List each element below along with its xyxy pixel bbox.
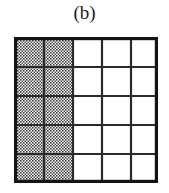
grid-cell-r5-c5 — [132, 155, 156, 181]
grid-cell-r1-c2 — [45, 39, 72, 66]
grid-cell-r4-c2 — [45, 126, 72, 153]
grid-cell-r5-c1 — [16, 155, 43, 181]
grid-cell-r1-c5 — [132, 39, 156, 66]
grid-cell-r2-c3 — [74, 68, 101, 95]
grid-cell-r3-c5 — [132, 97, 156, 124]
grid-cell-r2-c1 — [16, 68, 43, 95]
grid-cell-r1-c3 — [74, 39, 101, 66]
figure-panel: (b) — [0, 0, 169, 193]
grid-diagram — [14, 37, 158, 183]
grid-cell-r2-c5 — [132, 68, 156, 95]
grid-cell-r1-c1 — [16, 39, 43, 66]
grid-cell-r4-c4 — [103, 126, 130, 153]
grid-cell-r3-c1 — [16, 97, 43, 124]
grid-cell-r4-c5 — [132, 126, 156, 153]
grid-cell-r1-c4 — [103, 39, 130, 66]
grid-cell-r3-c3 — [74, 97, 101, 124]
grid-cell-r5-c2 — [45, 155, 72, 181]
grid-cell-r3-c4 — [103, 97, 130, 124]
grid-cells-layer — [16, 39, 156, 181]
grid-cell-r3-c2 — [45, 97, 72, 124]
grid-cell-r5-c4 — [103, 155, 130, 181]
grid-cell-r2-c2 — [45, 68, 72, 95]
grid-svg — [14, 37, 158, 183]
grid-cell-r5-c3 — [74, 155, 101, 181]
figure-caption: (b) — [0, 1, 169, 25]
grid-cell-r2-c4 — [103, 68, 130, 95]
grid-cell-r4-c1 — [16, 126, 43, 153]
grid-cell-r4-c3 — [74, 126, 101, 153]
